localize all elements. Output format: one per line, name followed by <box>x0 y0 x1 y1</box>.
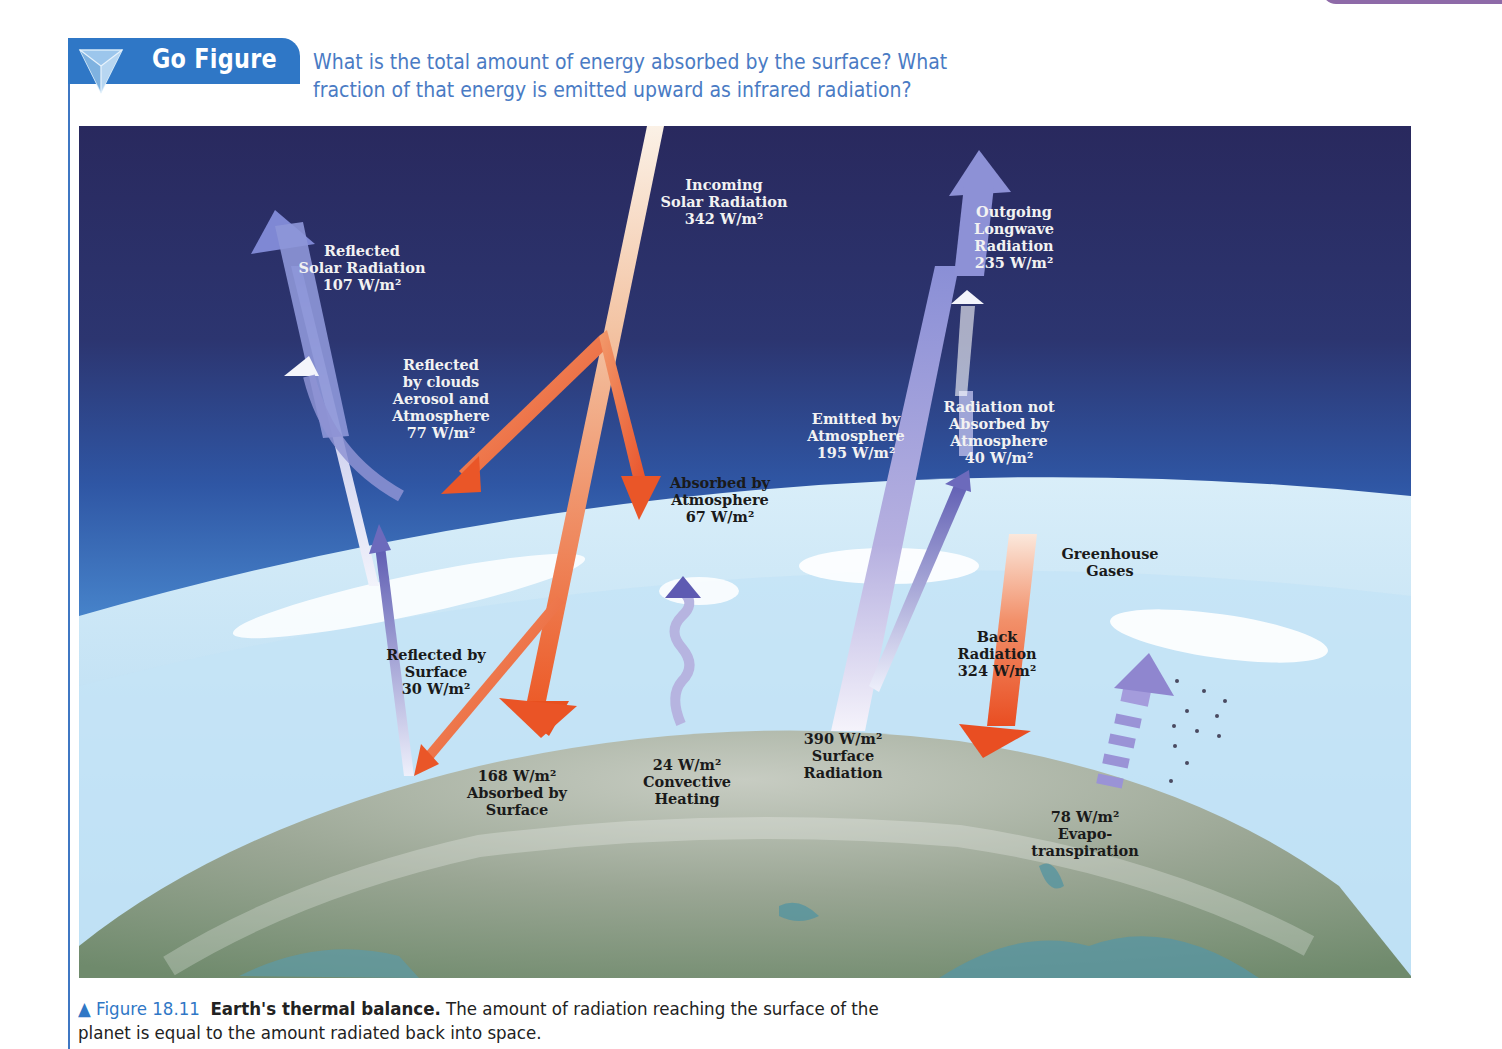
figure-caption: ▲ Figure 18.11 Earth's thermal balance. … <box>78 997 888 1045</box>
label-back-radiation: Back Radiation 324 W/m² <box>957 628 1036 679</box>
label-greenhouse-gases: Greenhouse Gases <box>1061 545 1158 579</box>
figure-title: Earth's thermal balance. <box>210 998 440 1019</box>
triangle-pyramid-icon <box>78 46 124 96</box>
label-outgoing-longwave: Outgoing Longwave Radiation 235 W/m² <box>974 203 1054 271</box>
go-figure-question: What is the total amount of energy absor… <box>313 48 961 104</box>
figure-number: ▲ Figure 18.11 <box>78 998 200 1019</box>
label-not-absorbed: Radiation not Absorbed by Atmosphere 40 … <box>943 398 1054 466</box>
label-reflected-solar: Reflected Solar Radiation 107 W/m² <box>299 242 426 293</box>
label-incoming-solar: Incoming Solar Radiation 342 W/m² <box>661 176 788 227</box>
page-corner-tab <box>1322 0 1502 4</box>
figure-frame-line <box>68 62 70 1049</box>
diagram-artwork <box>79 126 1411 978</box>
go-figure-badge: Go Figure <box>68 38 300 84</box>
label-convective-heating: 24 W/m² Convective Heating <box>643 756 731 807</box>
go-figure-title: Go Figure <box>152 44 277 74</box>
label-emitted-atmosphere: Emitted by Atmosphere 195 W/m² <box>807 410 905 461</box>
energy-balance-diagram: Incoming Solar Radiation 342 W/m² Reflec… <box>79 126 1411 978</box>
label-reflected-surface: Reflected by Surface 30 W/m² <box>386 646 486 697</box>
label-reflected-clouds: Reflected by clouds Aerosol and Atmosphe… <box>392 356 490 441</box>
label-absorbed-surface: 168 W/m² Absorbed by Surface <box>467 767 567 818</box>
label-absorbed-atmosphere: Absorbed by Atmosphere 67 W/m² <box>670 474 770 525</box>
label-evapotranspiration: 78 W/m² Evapo- transpiration <box>1031 808 1139 859</box>
label-surface-radiation: 390 W/m² Surface Radiation <box>803 730 882 781</box>
